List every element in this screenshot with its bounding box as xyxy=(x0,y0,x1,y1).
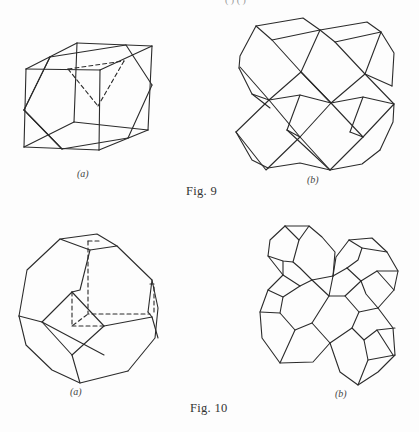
fig9a-label: (a) xyxy=(77,168,89,179)
fig9-caption: Fig. 9 xyxy=(186,184,217,199)
figure-drawings xyxy=(0,0,419,432)
fig10b-label: (b) xyxy=(335,388,347,399)
fig9a-cube-drawing xyxy=(24,43,152,150)
fig10b-truncated-octahedra-packing-drawing xyxy=(260,226,398,385)
fig9b-rhombic-dodecahedra-drawing xyxy=(236,18,394,170)
fig10a-label: (a) xyxy=(70,386,82,397)
fig10a-truncated-octahedron-drawing xyxy=(19,234,158,383)
book-page: ( ) ( ) xyxy=(0,0,419,432)
fig10-caption: Fig. 10 xyxy=(190,401,228,416)
fig9b-label: (b) xyxy=(307,174,319,185)
